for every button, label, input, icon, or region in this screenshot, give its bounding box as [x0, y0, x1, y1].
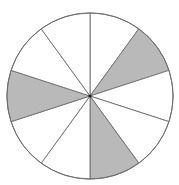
center-point — [88, 94, 91, 97]
fraction-circle-diagram — [0, 0, 179, 185]
